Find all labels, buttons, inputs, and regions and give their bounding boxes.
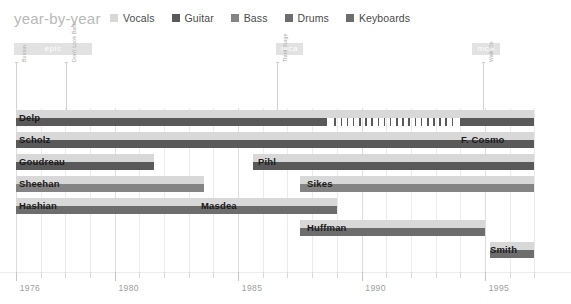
axis-year-label-1995: 1995 [489, 283, 510, 293]
axis-tick-1993 [436, 272, 437, 278]
axis-tick-1995 [485, 272, 486, 281]
legend-swatch-icon [346, 14, 354, 22]
axis-tick-1990 [362, 272, 363, 281]
bar-segment-intermittent-tick [334, 118, 336, 126]
axis-tick-1989 [337, 272, 338, 278]
bar-segment-intermittent-tick [415, 118, 417, 126]
bar-segment-intermittent-tick [402, 118, 404, 126]
member-label-huffman: Huffman [302, 220, 347, 236]
axis-tick-1997 [534, 272, 535, 278]
axis-tick-1978 [65, 272, 66, 278]
member-label-smith: Smith [485, 242, 517, 258]
album-marker-label: Boston [21, 45, 27, 62]
legend-label: Vocals [123, 12, 155, 24]
axis-tick-1980 [115, 272, 116, 281]
bar-segment-bass[interactable] [300, 184, 534, 192]
legend-item-guitar[interactable]: Guitar [172, 12, 214, 24]
bar-segment-intermittent-tick [378, 118, 380, 126]
album-marker-line [277, 62, 278, 110]
axis-tick-1985 [238, 272, 239, 281]
axis-tick-1994 [460, 272, 461, 278]
legend-label: Keyboards [359, 12, 410, 24]
record-label-ribbon-mca: mca [472, 43, 500, 55]
member-label-pihl: Pihl [253, 154, 276, 170]
bar-segment-intermittent-tick [347, 118, 349, 126]
legend-item-drums[interactable]: Drums [285, 12, 329, 24]
bar-segment-intermittent-tick [371, 118, 373, 126]
bar-segment-intermittent-tick [396, 118, 398, 126]
bar-segment-vocals[interactable] [16, 110, 534, 118]
legend-swatch-icon [172, 14, 180, 22]
axis-tick-1991 [386, 272, 387, 278]
chart-header: year-by-year VocalsGuitarBassDrumsKeyboa… [0, 10, 571, 32]
axis-tick-1976 [16, 272, 17, 281]
bar-segment-vocals[interactable] [253, 154, 534, 162]
legend-swatch-icon [110, 14, 118, 22]
axis-tick-1987 [287, 272, 288, 278]
album-marker-line [483, 62, 484, 110]
member-label-sikes: Sikes [302, 176, 333, 192]
bar-segment-intermittent-tick [427, 118, 429, 126]
chart-legend: VocalsGuitarBassDrumsKeyboards [110, 12, 427, 24]
album-marker-line [16, 62, 17, 110]
record-label-ribbon-mca: mca [276, 43, 303, 55]
timeline-row-sikes[interactable]: Sikes [0, 176, 571, 198]
bar-segment-intermittent-tick [452, 118, 454, 126]
bar-segment-intermittent-tick [353, 118, 355, 126]
member-label-delp: Delp [14, 110, 40, 126]
bar-segment-vocals[interactable] [300, 176, 534, 184]
timeline-row-huffman[interactable]: Huffman [0, 220, 571, 242]
legend-item-vocals[interactable]: Vocals [110, 12, 155, 24]
legend-item-keyboards[interactable]: Keyboards [346, 12, 410, 24]
axis-tick-1977 [41, 272, 42, 278]
bar-segment-guitar[interactable] [16, 118, 327, 126]
axis-tick-1996 [510, 272, 511, 278]
bar-segment-intermittent-tick [359, 118, 361, 126]
member-label-fcosmo: F. Cosmo [456, 132, 504, 148]
legend-swatch-icon [285, 14, 293, 22]
bar-segment-intermittent-tick [365, 118, 367, 126]
member-label-scholz: Scholz [14, 132, 51, 148]
axis-tick-1984 [213, 272, 214, 278]
page-title: year-by-year [14, 10, 101, 27]
album-marker-cap-icon [15, 62, 18, 63]
axis-year-label-1985: 1985 [242, 283, 263, 293]
bar-segment-guitar[interactable] [253, 162, 534, 170]
bar-segment-intermittent-tick [341, 118, 343, 126]
timeline-row-fcosmo[interactable]: F. Cosmo [0, 132, 571, 154]
axis-year-label-1990: 1990 [365, 283, 386, 293]
album-marker-label: Don't Look Back [71, 22, 77, 62]
legend-label: Drums [298, 12, 329, 24]
bar-segment-intermittent-tick [390, 118, 392, 126]
legend-item-bass[interactable]: Bass [231, 12, 268, 24]
timeline-row-delp[interactable]: Delp [0, 110, 571, 132]
timeline-row-pihl[interactable]: Pihl [0, 154, 571, 176]
album-marker-cap-icon [482, 62, 485, 63]
axis-year-label-1980: 1980 [118, 283, 139, 293]
member-label-hashian: Hashian [14, 198, 57, 214]
member-label-goudreau: Goudreau [14, 154, 65, 170]
album-marker-line [66, 62, 67, 110]
bar-segment-guitar[interactable] [460, 118, 534, 126]
bar-segment-intermittent-tick [384, 118, 386, 126]
bar-segment-intermittent-tick [408, 118, 410, 126]
bar-segment-intermittent-tick [439, 118, 441, 126]
axis-tick-1982 [164, 272, 165, 278]
timeline-row-smith[interactable]: Smith [0, 242, 571, 264]
album-marker-label: Walk On [488, 41, 494, 62]
timeline-plot-area: DelpScholzF. CosmoGoudreauPihlSheehanSik… [0, 108, 571, 272]
bar-segment-intermittent-tick [433, 118, 435, 126]
legend-label: Bass [244, 12, 268, 24]
timeline-row-masdea[interactable]: Masdea [0, 198, 571, 220]
axis-year-label-1976: 1976 [20, 283, 41, 293]
member-label-masdea: Masdea [196, 198, 237, 214]
year-by-year-timeline-chart: year-by-year VocalsGuitarBassDrumsKeyboa… [0, 0, 571, 304]
album-marker-label: Third Stage [282, 34, 288, 62]
axis-tick-1992 [411, 272, 412, 278]
bar-segment-intermittent-tick [421, 118, 423, 126]
axis-tick-1988 [312, 272, 313, 278]
axis-tick-1979 [90, 272, 91, 278]
album-marker-cap-icon [65, 62, 68, 63]
axis-tick-1986 [263, 272, 264, 278]
bar-segment-intermittent-tick [445, 118, 447, 126]
